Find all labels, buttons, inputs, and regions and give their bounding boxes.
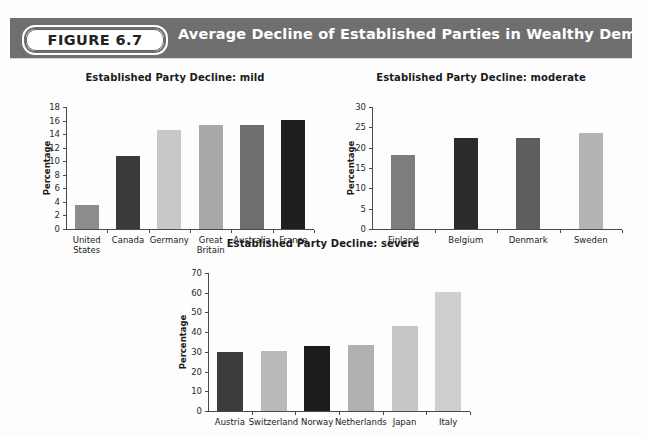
bar-severe-3 — [348, 345, 374, 411]
bar-mild-5 — [281, 120, 305, 229]
x-tick-mark-mild-2 — [190, 230, 191, 233]
y-tick-label-mild-9: 18 — [36, 102, 60, 112]
y-tick-mark-moderate-6 — [369, 107, 372, 108]
y-tick-label-moderate-6: 30 — [342, 102, 366, 112]
y-tick-label-severe-0: 0 — [178, 406, 202, 416]
y-tick-mark-severe-4 — [205, 332, 208, 333]
figure-number-label: FIGURE 6.7 — [48, 32, 143, 48]
x-tick-mark-mild-4 — [273, 230, 274, 233]
y-tick-mark-severe-7 — [205, 273, 208, 274]
y-tick-label-severe-1: 10 — [178, 386, 202, 396]
y-tick-label-mild-4: 8 — [36, 170, 60, 180]
figure-number-badge-inner: FIGURE 6.7 — [26, 29, 164, 51]
y-tick-label-severe-2: 20 — [178, 367, 202, 377]
bar-moderate-0 — [391, 155, 415, 229]
x-tick-label-moderate-3: Sweden — [554, 235, 629, 245]
y-tick-label-moderate-0: 0 — [342, 224, 366, 234]
y-tick-label-mild-1: 2 — [36, 210, 60, 220]
bar-moderate-1 — [454, 138, 478, 229]
y-tick-mark-mild-2 — [63, 202, 66, 203]
chart-title-severe: Established Party Decline: severe — [158, 238, 488, 249]
y-tick-label-mild-5: 10 — [36, 156, 60, 166]
chart-panel-mild: Established Party Decline: mildPercentag… — [22, 72, 328, 263]
x-tick-mark-mild-3 — [231, 230, 232, 233]
chart-title-moderate: Established Party Decline: moderate — [326, 72, 636, 83]
y-tick-label-mild-6: 12 — [36, 143, 60, 153]
bar-mild-3 — [199, 125, 223, 229]
bar-severe-0 — [217, 352, 243, 411]
x-tick-mark-severe-2 — [339, 412, 340, 415]
x-tick-mark-mild-0 — [107, 230, 108, 233]
y-tick-label-mild-7: 14 — [36, 129, 60, 139]
bar-mild-2 — [157, 130, 181, 229]
y-tick-mark-severe-1 — [205, 391, 208, 392]
y-tick-label-moderate-3: 15 — [342, 163, 366, 173]
y-tick-mark-severe-5 — [205, 312, 208, 313]
y-tick-label-severe-6: 60 — [178, 288, 202, 298]
bar-moderate-3 — [579, 133, 603, 229]
bar-mild-4 — [240, 125, 264, 229]
bar-mild-1 — [116, 156, 140, 229]
x-tick-mark-mild-5 — [314, 230, 315, 233]
plot-area-moderate: Percentage051015202530FinlandBelgiumDenm… — [326, 87, 636, 253]
y-tick-label-mild-2: 4 — [36, 197, 60, 207]
bar-severe-4 — [392, 326, 418, 411]
plot-area-severe: Percentage010203040506070AustriaSwitzerl… — [158, 253, 488, 435]
y-tick-mark-moderate-0 — [369, 229, 372, 230]
x-tick-mark-severe-3 — [383, 412, 384, 415]
x-tick-mark-moderate-0 — [435, 230, 436, 233]
x-tick-mark-severe-4 — [426, 412, 427, 415]
y-tick-mark-mild-0 — [63, 229, 66, 230]
chart-panel-severe: Established Party Decline: severePercent… — [158, 238, 488, 435]
y-tick-label-moderate-1: 5 — [342, 204, 366, 214]
y-tick-label-moderate-5: 25 — [342, 122, 366, 132]
x-tick-mark-severe-0 — [252, 412, 253, 415]
y-tick-mark-severe-2 — [205, 372, 208, 373]
figure-title: Average Decline of Established Parties i… — [178, 26, 646, 42]
y-tick-mark-mild-8 — [63, 121, 66, 122]
y-tick-label-severe-3: 30 — [178, 347, 202, 357]
plot-area-mild: Percentage024681012141618UnitedStatesCan… — [22, 87, 328, 263]
chart-panel-moderate: Established Party Decline: moderatePerce… — [326, 72, 636, 253]
y-tick-label-severe-7: 70 — [178, 268, 202, 278]
x-tick-mark-moderate-2 — [560, 230, 561, 233]
y-tick-label-moderate-2: 10 — [342, 183, 366, 193]
x-tick-mark-moderate-3 — [622, 230, 623, 233]
y-tick-mark-mild-9 — [63, 107, 66, 108]
bar-severe-2 — [304, 346, 330, 411]
y-tick-mark-mild-6 — [63, 148, 66, 149]
y-tick-mark-mild-5 — [63, 161, 66, 162]
y-tick-label-mild-0: 0 — [36, 224, 60, 234]
y-tick-mark-severe-3 — [205, 352, 208, 353]
bar-severe-1 — [261, 351, 287, 411]
x-tick-mark-mild-1 — [149, 230, 150, 233]
y-tick-mark-severe-6 — [205, 293, 208, 294]
y-tick-label-severe-4: 40 — [178, 327, 202, 337]
x-tick-mark-severe-1 — [295, 412, 296, 415]
y-tick-mark-mild-3 — [63, 188, 66, 189]
y-tick-label-severe-5: 50 — [178, 307, 202, 317]
x-tick-mark-severe-5 — [470, 412, 471, 415]
chart-title-mild: Established Party Decline: mild — [22, 72, 328, 83]
y-axis-line-mild — [66, 107, 67, 229]
y-tick-mark-mild-1 — [63, 215, 66, 216]
y-tick-mark-moderate-1 — [369, 209, 372, 210]
y-axis-line-moderate — [372, 107, 373, 229]
y-tick-mark-moderate-5 — [369, 127, 372, 128]
y-tick-mark-moderate-3 — [369, 168, 372, 169]
x-tick-label-severe-5: Italy — [420, 417, 476, 427]
y-axis-label-severe: Percentage — [178, 315, 188, 370]
page-footnote — [6, 431, 636, 437]
y-tick-mark-moderate-2 — [369, 188, 372, 189]
y-tick-mark-severe-0 — [205, 411, 208, 412]
y-tick-mark-mild-7 — [63, 134, 66, 135]
y-tick-mark-mild-4 — [63, 175, 66, 176]
y-tick-label-mild-3: 6 — [36, 183, 60, 193]
bar-moderate-2 — [516, 138, 540, 230]
y-tick-label-moderate-4: 20 — [342, 143, 366, 153]
bar-mild-0 — [75, 205, 99, 229]
y-tick-mark-moderate-4 — [369, 148, 372, 149]
figure-number-badge: FIGURE 6.7 — [22, 25, 168, 55]
y-tick-label-mild-8: 16 — [36, 116, 60, 126]
x-tick-mark-moderate-1 — [497, 230, 498, 233]
